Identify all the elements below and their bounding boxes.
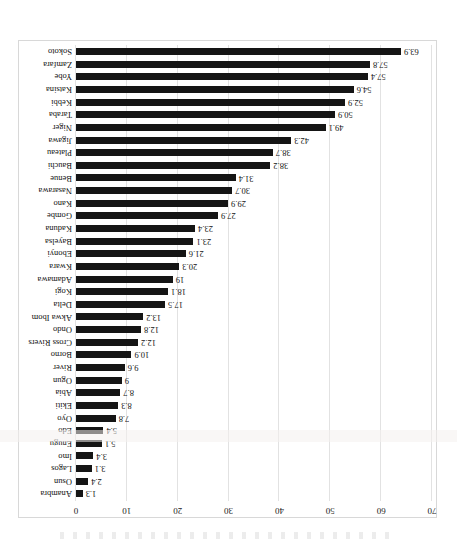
bar (76, 276, 173, 283)
chart-figure: 010203040506070 1.3Anambra2.4Osun3.1Lago… (18, 40, 437, 518)
bar-row: 19Adamawa (19, 273, 436, 285)
category-label: Taraba (49, 109, 76, 121)
bar (76, 48, 401, 55)
category-label: Ondo (53, 324, 76, 336)
bar-row: 8.3Ekiti (19, 399, 436, 411)
category-label: Sokoto (48, 46, 76, 58)
category-label: Cross Rivers (28, 337, 76, 349)
bar (76, 86, 354, 93)
bar (76, 415, 116, 422)
bar-row: 12.2Cross Rivers (19, 336, 436, 348)
category-label: Yobe (54, 71, 76, 83)
bar-row: 7.8Oyo (19, 412, 436, 424)
bar-value-label: 63.9 (401, 46, 419, 58)
plot-area: 010203040506070 1.3Anambra2.4Osun3.1Lago… (19, 41, 436, 517)
bar (76, 212, 218, 219)
category-label: Kebbi (51, 97, 76, 109)
bar (76, 99, 345, 106)
bar-value-label: 8.3 (118, 400, 132, 412)
category-label: Oyo (57, 413, 76, 425)
x-tick-label: 40 (275, 505, 284, 516)
bar (76, 225, 195, 232)
bar-row: 5.1Enugu (19, 437, 436, 449)
category-label: Abia (55, 387, 76, 399)
bar-row: 13.2Akwa Ibom (19, 311, 436, 323)
bar (76, 73, 368, 80)
bar (76, 238, 193, 245)
bar (76, 124, 326, 131)
bar-row: 57.8Zamfara (19, 58, 436, 70)
bar-row: 52.9Kebbi (19, 96, 436, 108)
category-label: Plateau (47, 147, 76, 159)
bar-value-label: 9 (122, 375, 129, 387)
bar (76, 389, 120, 396)
bar (76, 402, 118, 409)
x-tick-label: 20 (173, 505, 182, 516)
bar-value-label: 42.3 (291, 135, 309, 147)
bar-row: 27.9Gombe (19, 210, 436, 222)
category-label: Kano (54, 198, 76, 210)
bar-value-label: 29.9 (228, 198, 246, 210)
bar-value-label: 57.4 (368, 71, 386, 83)
category-label: Nasarawa (38, 185, 76, 197)
rotated-figure-canvas: 010203040506070 1.3Anambra2.4Osun3.1Lago… (0, 0, 457, 540)
bar-row: 54.6Katsina (19, 83, 436, 95)
bar (76, 427, 103, 434)
category-label: Niger (53, 122, 76, 134)
bar-value-label: 20.3 (179, 261, 197, 273)
bar (76, 263, 179, 270)
category-label: Enugu (50, 438, 76, 450)
bar (76, 339, 138, 346)
bar-value-label: 54.6 (354, 84, 372, 96)
bar-value-label: 38.2 (270, 160, 288, 172)
category-label: Delta (54, 299, 76, 311)
bar-value-label: 49.1 (326, 122, 344, 134)
category-label: Imo (58, 451, 76, 463)
bar-row: 8.7Abia (19, 387, 436, 399)
bar-value-label: 1.3 (83, 489, 97, 501)
bar (76, 250, 186, 257)
bar (76, 351, 131, 358)
bar (76, 137, 291, 144)
bar (76, 162, 270, 169)
bar-value-label: 3.4 (93, 451, 107, 463)
bar-value-label: 9.6 (125, 362, 139, 374)
bar-value-label: 5.1 (102, 438, 116, 450)
bar (76, 200, 228, 207)
bar-value-label: 23.4 (195, 223, 213, 235)
bar-row: 2.4Osun (19, 475, 436, 487)
bar (76, 465, 92, 472)
category-label: Ekiti (55, 400, 76, 412)
category-label: Adamawa (38, 274, 76, 286)
category-label: Kaduna (46, 223, 76, 235)
x-tick-label: 50 (326, 505, 335, 516)
bar (76, 478, 88, 485)
bar-value-label: 21.6 (186, 248, 204, 260)
x-tick-label: 30 (224, 505, 233, 516)
bar (76, 440, 102, 447)
bar-row: 29.9Kano (19, 197, 436, 209)
bar (76, 326, 141, 333)
bar-rows: 1.3Anambra2.4Osun3.1Lagos3.4Imo5.1Enugu5… (19, 44, 436, 500)
category-label: Katsina (46, 84, 76, 96)
bar-value-label: 8.7 (120, 387, 134, 399)
category-label: Bauchi (48, 160, 76, 172)
bar-value-label: 5.4 (103, 425, 117, 437)
x-tick-label: 0 (74, 505, 79, 516)
bar (76, 364, 125, 371)
bar-row: 20.3Kwara (19, 260, 436, 272)
category-label: Kwara (49, 261, 76, 273)
bar (76, 490, 83, 497)
category-label: Ogun (53, 375, 76, 387)
bar-row: 9Ogun (19, 374, 436, 386)
x-tick-label: 70 (428, 505, 437, 516)
bar-value-label: 23.1 (193, 236, 211, 248)
bar (76, 313, 143, 320)
bar-row: 10.9Borno (19, 349, 436, 361)
category-label: Zamfara (43, 59, 76, 71)
category-label: Borno (51, 349, 76, 361)
bar (76, 187, 232, 194)
bar-row: 38.7Plateau (19, 146, 436, 158)
bar (76, 301, 165, 308)
bar-row: 21.6Ebonyi (19, 248, 436, 260)
